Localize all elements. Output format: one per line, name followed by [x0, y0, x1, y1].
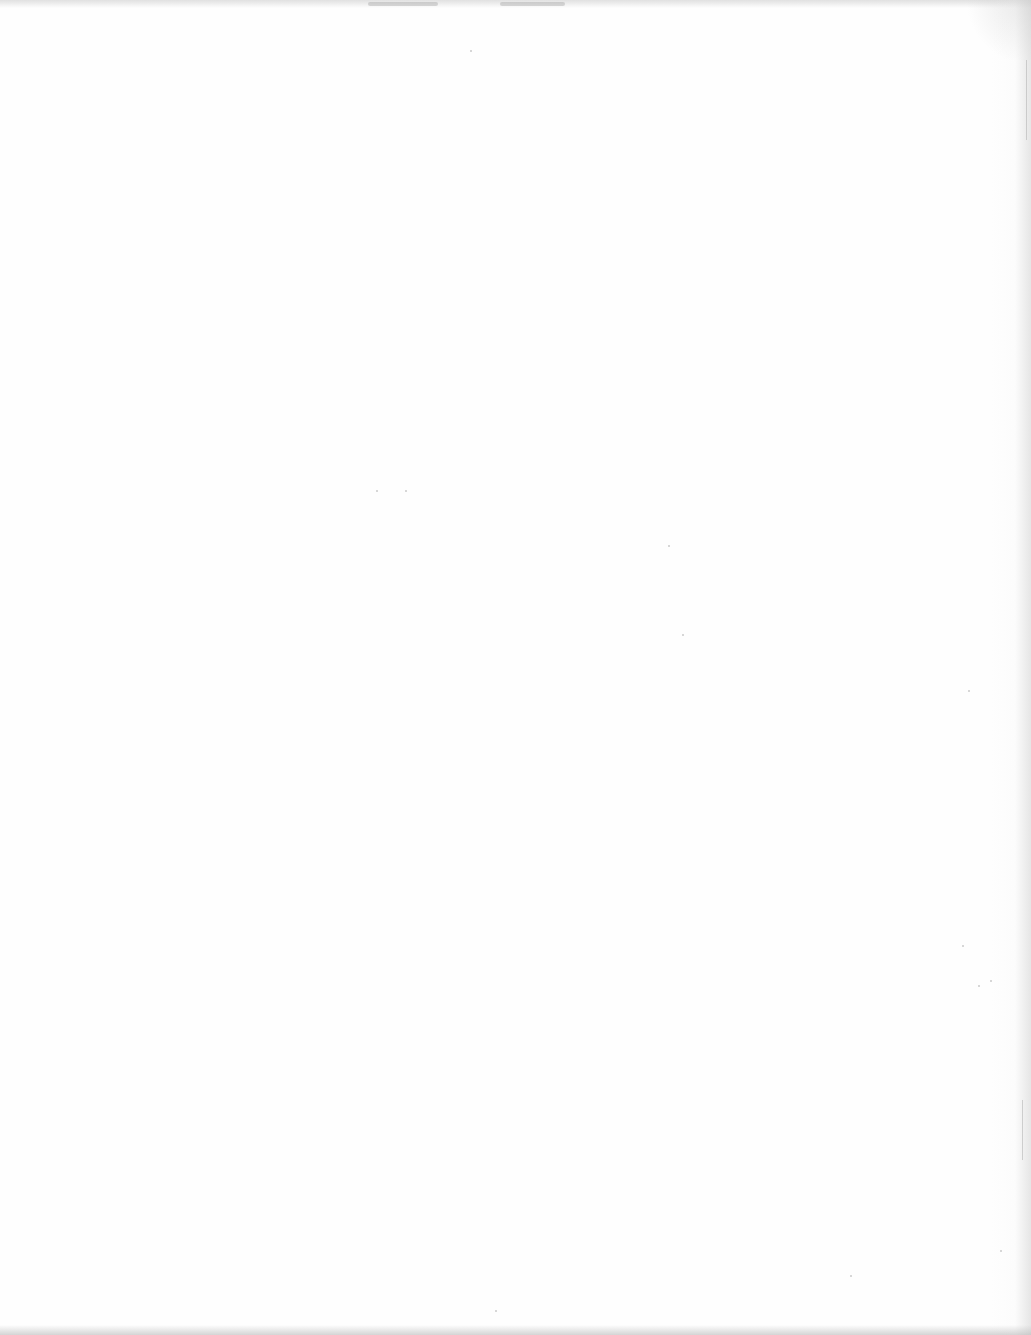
edge-crease	[1026, 60, 1027, 140]
dust-speck	[850, 1275, 852, 1277]
dust-speck	[668, 545, 670, 547]
dust-speck	[990, 980, 992, 982]
dust-speck	[962, 945, 964, 947]
top-smudge-mark	[368, 2, 438, 6]
scanned-blank-page	[0, 0, 1031, 1335]
dust-speck	[968, 690, 970, 692]
edge-crease	[1022, 1100, 1023, 1160]
dust-speck	[376, 490, 378, 492]
dust-speck	[405, 490, 407, 492]
top-smudge-mark	[500, 2, 565, 6]
dust-speck	[682, 634, 684, 636]
dust-speck	[978, 985, 980, 987]
bottom-scan-edge	[0, 1325, 1031, 1335]
dust-speck	[495, 1310, 497, 1312]
right-scan-edge	[991, 0, 1031, 1335]
dust-speck	[470, 50, 472, 52]
dust-speck	[1000, 1250, 1002, 1252]
